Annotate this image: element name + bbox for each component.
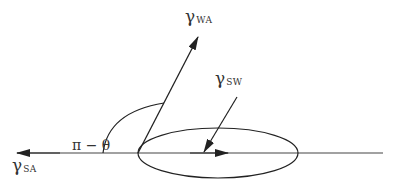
contact-angle-diagram: γSA π − θ γWA γSW [0, 0, 395, 185]
angle-label: π − θ [72, 137, 110, 153]
gamma-wa-subscript: WA [196, 15, 212, 25]
gamma-wa-symbol: γ [185, 6, 195, 26]
gamma-sw-arrow [204, 97, 237, 152]
gamma-wa-arrow [138, 37, 198, 153]
gamma-sa-label: γSA [12, 155, 37, 175]
angle-arc [103, 103, 164, 153]
gamma-sa-symbol: γ [12, 155, 22, 175]
gamma-sa-subscript: SA [23, 164, 37, 174]
gamma-sw-subscript: SW [226, 77, 243, 87]
gamma-sw-label: γSW [215, 68, 243, 88]
gamma-wa-label: γWA [185, 6, 212, 26]
gamma-sw-symbol: γ [215, 68, 225, 88]
